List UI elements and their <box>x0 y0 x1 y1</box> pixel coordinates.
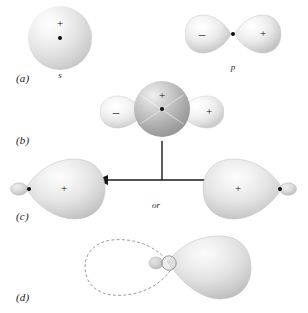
sp-hybrid-left-plus-sign: + <box>58 183 70 194</box>
superimposed-plus-sign-right: + <box>203 106 215 117</box>
row-label-c: (c) <box>16 210 29 222</box>
superimposed-minus-sign: – <box>110 105 122 118</box>
superimposed-plus-sign-top: + <box>156 90 168 101</box>
superimposed-nucleus <box>160 107 164 111</box>
sp-hybrid-node-large-lobe <box>166 234 252 300</box>
row-label-a: (a) <box>16 72 29 84</box>
p-orbital-plus-sign: + <box>257 28 269 39</box>
or-connector-text: or <box>146 200 166 210</box>
s-orbital-nucleus <box>58 36 62 40</box>
row-label-b: (b) <box>16 134 29 146</box>
orbital-hybridization-figure: + s – <box>0 0 308 313</box>
s-orbital-caption: s <box>50 70 70 80</box>
p-orbital-minus-sign: – <box>196 27 208 40</box>
row-label-d: (d) <box>16 291 29 303</box>
p-orbital-lobe-minus <box>185 14 231 54</box>
sp-hybrid-left-nucleus <box>27 187 31 191</box>
sp-hybrid-right-nucleus <box>278 187 282 191</box>
node-circle-marker <box>160 254 178 272</box>
p-orbital-caption: p <box>223 62 243 72</box>
s-orbital-plus-sign: + <box>54 18 66 29</box>
p-orbital-nucleus <box>231 32 235 36</box>
sp-hybrid-right-plus-sign: + <box>232 183 244 194</box>
